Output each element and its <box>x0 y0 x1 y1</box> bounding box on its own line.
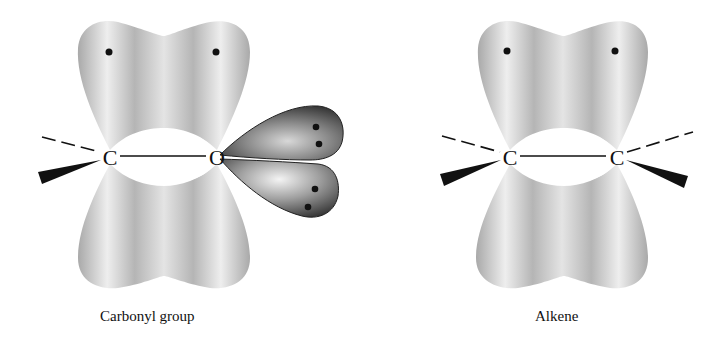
alkene-panel: C C <box>440 21 693 288</box>
pi-electron <box>106 49 113 56</box>
lone-pair-electron <box>312 186 319 193</box>
lone-pair-electron <box>313 124 320 131</box>
carbonyl-caption: Carbonyl group <box>100 308 195 325</box>
wedge-bond <box>38 160 101 184</box>
sigma-gap <box>512 130 616 184</box>
pi-electron <box>612 48 619 55</box>
sigma-gap <box>112 130 216 184</box>
orbital-diagram: C O C C <box>0 0 726 352</box>
wedge-bond <box>440 160 501 186</box>
lone-pair-electron <box>316 141 323 148</box>
oxygen-atom-label: O <box>209 145 225 170</box>
carbonyl-panel: C O <box>38 21 343 288</box>
dashed-bond <box>42 137 100 152</box>
carbon-atom-label: C <box>503 145 518 170</box>
alkene-caption: Alkene <box>535 308 578 325</box>
carbon-atom-label: C <box>103 145 118 170</box>
carbon-atom-label: C <box>610 145 625 170</box>
oxygen-lone-pair-top-lobe <box>220 106 343 160</box>
pi-electron <box>213 49 220 56</box>
wedge-bond <box>626 160 688 188</box>
dashed-bond <box>627 132 693 152</box>
dashed-bond <box>442 136 500 152</box>
pi-electron <box>504 48 511 55</box>
lone-pair-electron <box>305 204 312 211</box>
